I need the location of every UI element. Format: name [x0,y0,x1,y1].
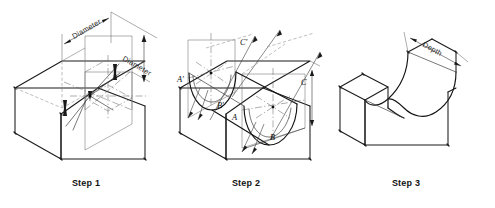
step2-label-b: B [270,133,275,142]
caption-step-1: Step 1 [36,178,136,188]
step1-diameter-side-label: Diameter [121,54,153,78]
step1-diameter-top-label: Diameter [71,17,103,41]
step3-left-pillar [340,74,388,145]
step1-ellipse-enclosing-square [85,59,132,111]
step1-diameter-side-dimension: Diameter [111,12,157,82]
step2-point-labels: A' B' C' A B C [176,38,307,142]
step-3-drawing: Depth [320,0,495,208]
step1-centre-point [88,91,92,101]
step-2-drawing: A' B' C' A B C [160,0,335,208]
step2-left-frame [188,33,235,118]
isometric-construction-figure: Diameter Diameter [0,0,495,208]
step2-label-a-prime: A' [176,75,184,84]
step2-label-b-prime: B' [217,101,224,110]
step2-label-c: C [301,78,307,87]
step2-label-c-prime: C' [240,38,248,47]
step3-base-block [365,92,448,145]
caption-step-3: Step 3 [356,178,456,188]
step-captions: Step 1 Step 2 Step 3 [0,178,495,196]
step2-label-a: A [231,113,238,122]
step1-diameter-top-dimension: Diameter [62,12,111,61]
step-1-drawing: Diameter Diameter [0,0,165,208]
step3-channel-interior [365,52,456,118]
step3-channel-near-edge [388,72,456,116]
caption-step-2: Step 2 [196,178,296,188]
step1-diagonal-rays [66,64,120,130]
step1-corner-ticks [14,87,146,160]
step2-c-dimension [310,61,320,126]
step3-depth-label: Depth [421,40,444,58]
